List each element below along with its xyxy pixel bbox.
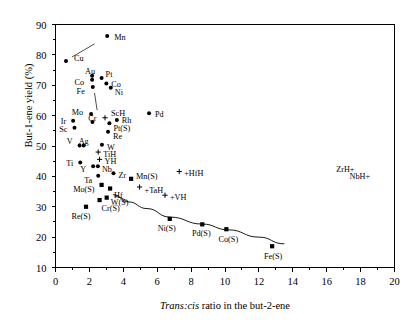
x-axis-label: Trans:cis ratio in the but-2-ene (55, 300, 395, 311)
x-tick-label: 14 (288, 276, 299, 287)
marker-circle (100, 143, 104, 147)
point-label: Zr (118, 171, 126, 180)
point-label: Re(S) (71, 212, 90, 221)
y-axis-label: But-1-ene yield (%) (23, 26, 34, 186)
point-label: Au (85, 67, 95, 76)
data-points-group: MnCuAuPtCoCoNiFeMoScHPdRhIrCrPt(S)ScReAg… (59, 33, 282, 261)
data-point: Nb (96, 164, 112, 174)
point-label: Sc (59, 125, 68, 134)
point-label: Mn(S) (136, 172, 158, 181)
y-tick-label: 30 (36, 202, 47, 213)
figure-container: 02468101214161820102030405060708090 MnCu… (0, 0, 420, 329)
x-tick-label: 4 (121, 276, 127, 287)
marker-circle (109, 86, 113, 90)
free-annotation: NbH+ (349, 172, 370, 181)
marker-square (84, 205, 88, 209)
marker-circle (96, 174, 100, 178)
y-tick-label: 20 (36, 232, 47, 243)
y-tick-label: 10 (36, 263, 47, 274)
marker-square (97, 198, 101, 202)
data-point: Fe(S) (264, 244, 282, 261)
x-tick-label: 10 (220, 276, 231, 287)
data-point: Cr (88, 114, 96, 124)
data-point: Sc (59, 125, 76, 134)
data-point: Re(S) (71, 205, 90, 221)
marker-circle (71, 119, 75, 123)
marker-circle (100, 76, 104, 80)
data-point: Ni(S) (158, 217, 176, 233)
data-point: Mn (105, 33, 125, 42)
point-label: Ti (66, 159, 74, 168)
data-point: Ni (109, 86, 124, 97)
x-axis-label-rest: ratio in the but-2-ene (199, 300, 290, 311)
point-label: Cu (74, 54, 84, 63)
marker-circle (78, 143, 82, 147)
marker-circle (104, 81, 108, 85)
data-point: +TaH (137, 184, 163, 195)
data-point: Cu (64, 44, 94, 63)
data-point: Mn(S) (129, 172, 158, 181)
data-point: Zr (111, 171, 126, 180)
point-label: Mo (72, 108, 83, 117)
data-point: Mo(S) (73, 183, 103, 194)
marker-circle (111, 171, 115, 175)
x-tick-label: 16 (321, 276, 332, 287)
point-label: Mn (114, 33, 125, 42)
marker-circle (72, 126, 76, 130)
marker-circle (147, 111, 151, 115)
point-label: +VH (170, 193, 187, 202)
marker-square (224, 227, 228, 231)
marker-circle (96, 164, 100, 168)
marker-circle (78, 160, 82, 164)
point-label: Ni (115, 88, 124, 97)
point-label: Co(S) (219, 235, 239, 244)
point-label: Cr(S) (102, 204, 120, 213)
point-label: Pd (155, 110, 164, 119)
marker-circle (107, 121, 111, 125)
marker-square (129, 177, 133, 181)
y-tick-label: 70 (36, 80, 47, 91)
free-annotations-group: ZrH+NbH+ (114, 165, 370, 202)
y-tick-label: 90 (36, 20, 47, 31)
point-label: +HfH (184, 169, 203, 178)
marker-circle (115, 118, 119, 122)
x-tick-label: 6 (155, 276, 160, 287)
point-label: V (67, 137, 73, 146)
marker-square (105, 196, 109, 200)
data-point: Y (80, 164, 95, 174)
axes-group: 02468101214161820102030405060708090 (36, 20, 400, 287)
marker-square (168, 217, 172, 221)
data-point: Co (75, 78, 95, 87)
point-label: +TaH (145, 186, 164, 195)
data-point: Fe (77, 85, 95, 96)
scatter-plot: 02468101214161820102030405060708090 MnCu… (0, 0, 420, 329)
y-tick-label: 40 (36, 171, 47, 182)
point-label: Mo(S) (73, 185, 95, 194)
marker-circle (91, 85, 95, 89)
point-label: Fe (77, 87, 86, 96)
marker-circle (105, 34, 109, 38)
data-point: Pd (147, 110, 164, 119)
point-label: Pd(S) (192, 229, 211, 238)
y-tick-label: 80 (36, 50, 47, 61)
x-tick-label: 18 (355, 276, 366, 287)
point-label: Pt (106, 70, 114, 79)
point-label: Co (75, 78, 85, 87)
marker-circle (106, 130, 110, 134)
x-tick-label: 0 (53, 276, 58, 287)
point-label: Cr (88, 114, 96, 123)
data-point: Pt (100, 70, 114, 80)
data-point: Re (106, 130, 122, 141)
marker-square (100, 183, 104, 187)
data-point: +VH (162, 193, 186, 203)
point-label: Ni(S) (158, 224, 176, 233)
marker-circle (90, 78, 94, 82)
point-label: Re (113, 132, 122, 141)
marker-circle (91, 164, 95, 168)
data-point: +HfH (177, 169, 204, 178)
leader-line (94, 93, 97, 110)
x-tick-label: 20 (389, 276, 400, 287)
marker-circle (64, 59, 68, 63)
point-label: Nb (102, 165, 112, 174)
y-tick-label: 60 (36, 111, 47, 122)
